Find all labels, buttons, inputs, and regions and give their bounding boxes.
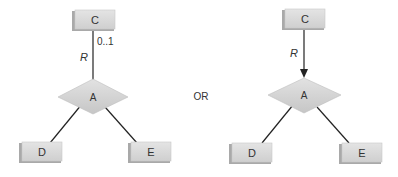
entity-c: C xyxy=(72,10,115,31)
role-label-r: R xyxy=(80,51,88,63)
relationship-a: A xyxy=(268,78,341,113)
entity-c-label: C xyxy=(301,13,309,25)
arrowhead-icon xyxy=(300,69,308,78)
er-diagram-canvas: C 0..1 R A D E OR xyxy=(0,0,398,177)
or-separator: OR xyxy=(194,91,209,102)
role-label-r: R xyxy=(290,47,298,59)
connector-a-e xyxy=(317,107,349,143)
relationship-a-label: A xyxy=(301,90,308,101)
entity-d-label: D xyxy=(248,147,256,159)
entity-e-label: E xyxy=(147,146,154,158)
entity-e: E xyxy=(339,143,382,164)
right-diagram: C R A D E xyxy=(229,9,382,164)
entity-c: C xyxy=(282,9,325,30)
connector-a-d xyxy=(50,104,82,143)
connector-a-e xyxy=(105,107,137,143)
cardinality-label: 0..1 xyxy=(97,36,114,47)
relationship-a-label: A xyxy=(90,92,97,103)
entity-d: D xyxy=(19,142,62,163)
entity-d: D xyxy=(229,143,272,164)
entity-d-label: D xyxy=(38,146,46,158)
entity-e: E xyxy=(128,142,171,163)
entity-e-label: E xyxy=(358,147,365,159)
relationship-a: A xyxy=(58,79,128,114)
connector-a-d xyxy=(262,105,293,143)
left-diagram: C 0..1 R A D E xyxy=(19,10,171,163)
entity-c-label: C xyxy=(91,14,99,26)
